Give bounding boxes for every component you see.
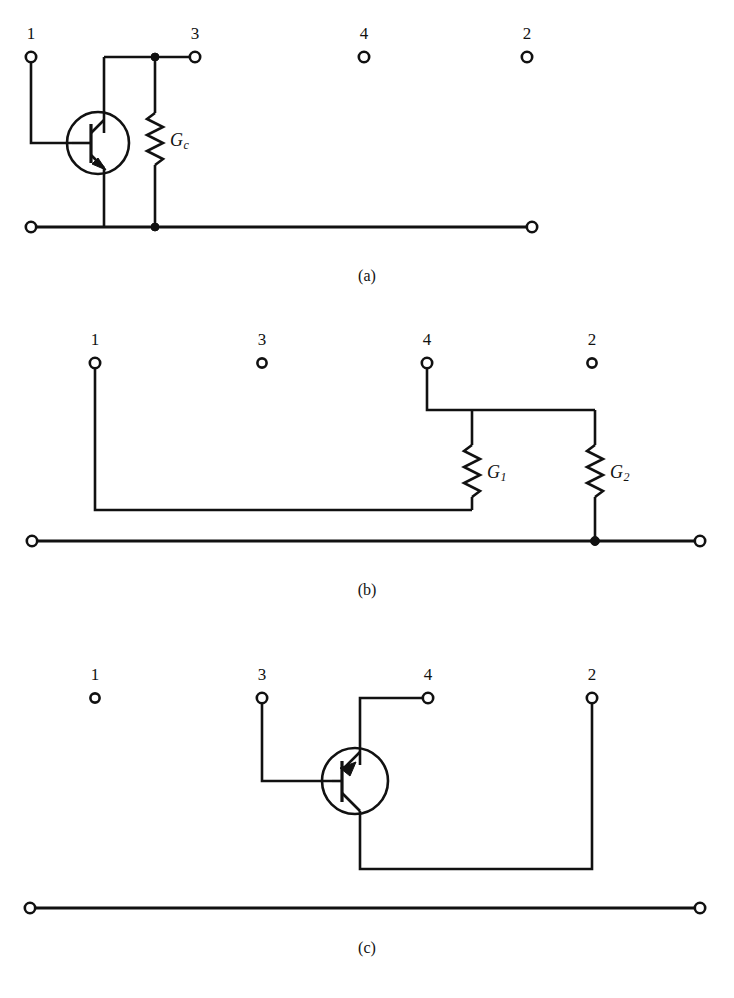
resistor-label-g1-sub: 1: [500, 470, 507, 484]
terminal-1-b[interactable]: [90, 358, 100, 368]
terminal-3-b[interactable]: [257, 358, 266, 367]
resistor-label-g1-text: G: [487, 462, 500, 482]
terminal-label-1-c: 1: [83, 666, 107, 683]
wire-collector-to-terminal2-c: [360, 698, 592, 869]
terminal-rail-right-c[interactable]: [695, 903, 705, 913]
terminal-1-c[interactable]: [90, 693, 99, 702]
terminal-rail-right-a[interactable]: [527, 222, 537, 232]
panel-a-schematic: [0, 0, 734, 310]
wire-terminal4-to-emitter-c: [360, 698, 428, 765]
transistor-collector-slant-c: [342, 793, 360, 811]
panel-a: 1 3 4 2 Gc (a): [0, 0, 734, 310]
terminal-1-a[interactable]: [26, 52, 36, 62]
resistor-label-gc-sub: c: [183, 138, 189, 152]
resistor-label-gc-text: G: [170, 130, 183, 150]
terminal-label-3-b: 3: [250, 331, 274, 348]
terminal-label-2-b: 2: [580, 331, 604, 348]
terminal-label-3-a: 3: [183, 25, 207, 42]
junction-dot-node3-a: [151, 53, 159, 61]
terminal-label-3-c: 3: [250, 666, 274, 683]
wire-terminal4-to-top-bus: [427, 363, 595, 410]
terminal-label-1-a: 1: [19, 25, 43, 42]
terminal-4-b[interactable]: [422, 358, 432, 368]
resistor-label-g2: G2: [610, 463, 630, 486]
junction-dot-rail-a: [151, 223, 159, 231]
resistor-label-g1: G1: [487, 463, 507, 486]
terminal-rail-right-b[interactable]: [695, 536, 705, 546]
terminal-3-c[interactable]: [257, 693, 267, 703]
resistor-label-gc: Gc: [170, 131, 189, 154]
transistor-collector-slant-a: [91, 120, 104, 133]
resistor-label-g2-sub: 2: [623, 470, 630, 484]
panel-c: 1 3 4 2 (c): [0, 640, 734, 998]
caption-b: (b): [327, 582, 407, 598]
panel-b: 1 3 4 2 G1 G2 (b): [0, 310, 734, 640]
terminal-rail-left-c[interactable]: [25, 903, 35, 913]
terminal-label-2-c: 2: [580, 666, 604, 683]
terminal-rail-left-a[interactable]: [26, 222, 36, 232]
terminal-rail-left-b[interactable]: [27, 536, 37, 546]
caption-a: (a): [327, 268, 407, 284]
terminal-4-a[interactable]: [359, 52, 369, 62]
resistor-g2-zigzag: [587, 445, 603, 497]
terminal-2-b[interactable]: [587, 358, 596, 367]
wire-terminal3-to-base-c: [262, 698, 332, 781]
terminal-3-a[interactable]: [190, 52, 200, 62]
terminal-label-4-b: 4: [415, 331, 439, 348]
terminal-label-1-b: 1: [83, 331, 107, 348]
figure-root: 1 3 4 2 Gc (a): [0, 0, 734, 998]
junction-dot-rail-b: [591, 537, 600, 546]
resistor-label-g2-text: G: [610, 462, 623, 482]
terminal-label-4-a: 4: [352, 25, 376, 42]
wire-terminal1-to-g1-bottom: [95, 363, 472, 510]
resistor-gc-zigzag: [147, 113, 163, 165]
terminal-2-a[interactable]: [522, 52, 532, 62]
terminal-4-c[interactable]: [423, 693, 433, 703]
terminal-label-4-c: 4: [416, 666, 440, 683]
resistor-g1-zigzag: [464, 445, 480, 497]
terminal-2-c[interactable]: [587, 693, 597, 703]
terminal-label-2-a: 2: [515, 25, 539, 42]
caption-c: (c): [327, 940, 407, 956]
wire-terminal1-to-base: [31, 57, 72, 143]
